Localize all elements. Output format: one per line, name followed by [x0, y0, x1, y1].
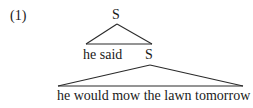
example-number: (1)	[10, 9, 26, 23]
edge-embedded-left	[58, 65, 150, 86]
edge-root-right	[117, 24, 152, 44]
upper-left-phrase: he said	[83, 48, 122, 62]
root-node-label: S	[112, 8, 120, 22]
upper-triangle	[86, 24, 152, 44]
syntax-tree-diagram: (1) S he said S he would mow the lawn to…	[0, 0, 253, 108]
embedded-node-label: S	[145, 48, 153, 62]
edge-embedded-right	[150, 65, 243, 86]
embedded-clause-text: he would mow the lawn tomorrow	[57, 89, 250, 103]
lower-triangle	[58, 65, 243, 86]
edge-root-left	[86, 24, 117, 44]
